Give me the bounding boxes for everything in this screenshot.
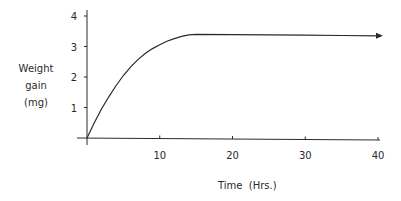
y-tick-label: 2 (71, 72, 77, 83)
x-tick-label: 20 (226, 150, 239, 161)
x-tick-label: 10 (153, 150, 166, 161)
x-axis-label: Time (Hrs.) (217, 180, 277, 191)
y-axis-label-line: Weight (19, 63, 54, 74)
x-axis (77, 138, 380, 140)
y-tick-label: 3 (71, 42, 77, 53)
y-axis-label: Weightgain(mg) (19, 63, 54, 108)
data-line (87, 34, 378, 138)
y-axis-label-line: (mg) (24, 97, 48, 108)
x-tick-label: 30 (299, 150, 312, 161)
arrowhead-icon (376, 33, 383, 39)
x-tick-label: 40 (372, 150, 385, 161)
weight-gain-chart: 123410203040 Weightgain(mg) Time (Hrs.) (0, 0, 401, 201)
y-tick-label: 4 (71, 11, 77, 22)
y-axis-label-line: gain (25, 80, 47, 91)
y-tick-label: 1 (71, 103, 77, 114)
